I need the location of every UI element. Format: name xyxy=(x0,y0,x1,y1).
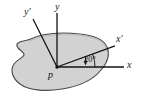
x-prime-axis-label: x′ xyxy=(116,34,123,44)
y-prime-axis-label: y′ xyxy=(24,7,31,17)
figure-container: y y′ x x′ p 20° xyxy=(0,0,141,105)
origin-point-marker xyxy=(55,65,58,68)
angle-value-label: 20° xyxy=(84,55,96,64)
diagram-canvas xyxy=(0,0,141,105)
origin-point-label: p xyxy=(48,70,53,80)
y-axis-label: y xyxy=(55,2,59,12)
x-axis-label: x xyxy=(127,60,131,70)
